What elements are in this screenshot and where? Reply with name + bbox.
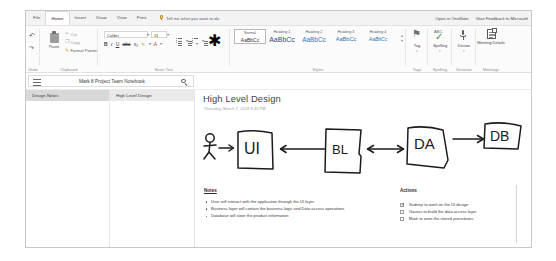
ribbon-tabs: File Home Insert Draw View Print [28, 11, 151, 25]
underline-button[interactable]: U [116, 41, 120, 47]
style-normal[interactable]: Normal AaBbCc [234, 29, 266, 44]
tab-view[interactable]: View [112, 11, 132, 25]
dictate-label: Dictate [452, 43, 476, 48]
tab-print[interactable]: Print [132, 11, 152, 25]
subscript-button[interactable]: x₂ [134, 41, 138, 47]
notes-block: Notes User will interact with the applic… [204, 188, 389, 221]
page-timestamp: Thursday, March 7, 2019 8:45 PM [204, 106, 266, 111]
align-left-icon[interactable] [202, 41, 208, 46]
ribbon-group-basic-text: Calibri ▾ 11 ▾ B I U abc x₂ ✎ ▾ A ▾ ▾ ▾ … [98, 26, 230, 72]
action-item[interactable]: Gaurav to build the data access layer [400, 209, 525, 215]
architecture-ink-drawing[interactable]: UI BL DA [195, 112, 532, 180]
redo-icon[interactable]: ↷ [29, 45, 34, 51]
undo-icon[interactable]: ↶ [29, 32, 35, 39]
style-heading-1[interactable]: Heading 1 AaBbCc [266, 29, 298, 44]
styles-gallery-scroll[interactable]: ▴▾ [401, 33, 403, 43]
ribbon-group-undo: ↶ ↷ Undo [26, 26, 40, 72]
checkbox-icon[interactable] [400, 203, 404, 207]
tell-me-search[interactable]: Tell me what you want to do [159, 11, 219, 25]
search-icon[interactable] [181, 79, 188, 86]
onenote-online-window: File Home Insert Draw View Print Tell me… [25, 10, 532, 248]
strikethrough-button[interactable]: abc [122, 41, 130, 47]
tag-chevron-down-icon[interactable]: ▾ [406, 49, 428, 53]
action-item-label: Mark to write the stored procedures [409, 216, 473, 221]
style-heading-2-sample: AaBbCc [298, 36, 330, 43]
list-format-row-bottom: ▾ ▾ [176, 41, 214, 46]
microphone-icon[interactable] [460, 30, 466, 40]
tag-icon[interactable] [411, 30, 423, 41]
list-item: Business layer will contain the business… [204, 206, 389, 212]
spelling-chevron-down-icon[interactable]: ▾ [428, 49, 452, 53]
checkbox-icon[interactable] [400, 217, 404, 221]
format-painter-label: Format Painter [71, 48, 98, 53]
style-heading-2[interactable]: Heading 2 AaBbCc [298, 29, 330, 44]
ribbon-tab-strip: File Home Insert Draw View Print Tell me… [26, 11, 531, 26]
text-format-row: B I U abc x₂ ✎ ▾ A ▾ [104, 41, 162, 47]
highlight-chevron-down-icon[interactable]: ▾ [149, 42, 151, 46]
style-heading-4-name: Heading 4 [362, 30, 394, 34]
style-heading-4-sample: AaBbCc [362, 36, 394, 42]
checkbox-icon[interactable] [400, 210, 404, 214]
tab-file[interactable]: File [28, 11, 45, 25]
tab-draw[interactable]: Draw [91, 11, 112, 25]
action-item[interactable]: Sudeep to work on the UI design [400, 202, 525, 208]
italic-button[interactable]: I [111, 42, 113, 47]
ribbon-group-dictation: Dictate ▾ Dictation [452, 26, 476, 72]
decrease-indent-icon[interactable] [176, 41, 182, 46]
bold-button[interactable]: B [104, 41, 108, 47]
font-size-input[interactable]: 11 [151, 31, 167, 38]
action-item[interactable]: Mark to write the stored procedures [400, 216, 525, 222]
paste-icon [49, 31, 60, 43]
tab-insert[interactable]: Insert [70, 11, 92, 25]
cut-button[interactable]: Cut [65, 32, 77, 37]
meeting-details-label: Meeting Details [476, 41, 506, 46]
font-color-icon[interactable]: A [154, 41, 157, 47]
style-heading-3-name: Heading 3 [330, 30, 362, 34]
ribbon-group-label-dictation: Dictation [452, 68, 476, 72]
align-chevron-down-icon[interactable]: ▾ [212, 42, 214, 46]
sidebar-item-design-notes[interactable]: Design Notes [26, 90, 109, 101]
give-feedback-link[interactable]: Give Feedback to Microsoft [476, 16, 528, 21]
spellcheck-icon[interactable]: ABC✓ [433, 29, 447, 41]
ribbon-group-label-meetings: Meetings [476, 68, 506, 72]
ribbon: ↶ ↷ Undo Paste Cut Copy Format Pain [26, 26, 531, 73]
style-heading-2-name: Heading 2 [298, 30, 330, 34]
font-name-input[interactable]: Calibri [104, 31, 148, 38]
font-name-chevron-down-icon[interactable]: ▾ [147, 33, 149, 37]
action-item-label: Gaurav to build the data access layer [409, 209, 477, 214]
style-normal-sample: AaBbCc [235, 37, 265, 43]
increase-indent-icon[interactable] [186, 41, 192, 46]
page-title[interactable]: High Level Design [203, 93, 281, 104]
ribbon-group-label-undo: Undo [26, 68, 40, 72]
meeting-details-icon[interactable] [487, 29, 496, 39]
page-list: High Level Design [110, 90, 195, 248]
indent-chevron-down-icon[interactable]: ▾ [196, 42, 198, 46]
style-normal-name: Normal [235, 31, 265, 35]
ribbon-group-meetings: Meeting Details Meetings [476, 26, 506, 72]
paste-button[interactable]: Paste [45, 31, 63, 49]
window-right-links: Open in OneNote Give Feedback to Microso… [435, 11, 528, 25]
page-canvas[interactable]: High Level Design Thursday, March 7, 201… [195, 90, 531, 248]
highlight-icon[interactable]: ✎ [141, 41, 145, 47]
notebook-header: Mark 8 Project Team Notebook [26, 73, 531, 90]
paste-label: Paste [45, 44, 63, 49]
action-item-label: Sudeep to work on the UI design [409, 202, 468, 207]
ribbon-group-clipboard: Paste Cut Copy Format Painter Clipboard [40, 26, 98, 72]
style-heading-3[interactable]: Heading 3 AaBbCc [330, 29, 362, 44]
list-item: Database will store the product informat… [204, 213, 389, 219]
tab-home[interactable]: Home [45, 11, 69, 25]
page-item-high-level-design[interactable]: High Level Design [110, 90, 195, 101]
styles-gallery: Normal AaBbCc Heading 1 AaBbCc Heading 2… [234, 29, 394, 44]
font-size-chevron-down-icon[interactable]: ▾ [167, 33, 169, 37]
copy-label: Copy [71, 40, 81, 45]
font-color-chevron-down-icon[interactable]: ▾ [160, 42, 162, 46]
tag-label: Tag [406, 43, 428, 48]
workspace: Design Notes High Level Design High Leve… [26, 90, 531, 248]
lightbulb-icon [159, 15, 164, 21]
style-heading-4[interactable]: Heading 4 AaBbCc [362, 29, 394, 44]
copy-button[interactable]: Copy [65, 40, 80, 45]
open-in-onenote-link[interactable]: Open in OneNote [435, 16, 468, 21]
format-painter-button[interactable]: Format Painter [65, 48, 98, 53]
ribbon-group-tags: Tag ▾ Tags [406, 26, 428, 72]
dictate-chevron-down-icon[interactable]: ▾ [452, 49, 476, 53]
